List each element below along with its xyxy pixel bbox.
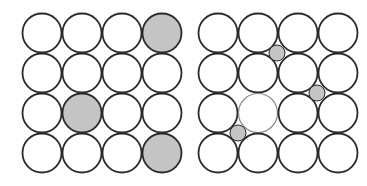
host-atom	[23, 14, 62, 53]
host-atom	[23, 94, 62, 133]
host-atom	[23, 134, 62, 173]
substitutional-atom	[143, 134, 182, 173]
host-atom	[319, 134, 358, 173]
host-atom	[319, 14, 358, 53]
host-atom	[103, 14, 142, 53]
host-atom	[143, 94, 182, 133]
host-atom	[143, 54, 182, 93]
host-atom	[199, 94, 238, 133]
host-atom	[63, 14, 102, 53]
interstitial-atom	[309, 85, 325, 101]
host-atom	[63, 134, 102, 173]
host-atom	[239, 134, 278, 173]
host-atom	[23, 54, 62, 93]
substitutional-atom	[143, 14, 182, 53]
host-atom	[319, 94, 358, 133]
interstitial-atom	[269, 45, 285, 61]
host-atom	[63, 54, 102, 93]
host-atom	[103, 94, 142, 133]
interstitial-lattice	[199, 14, 358, 173]
host-atom	[103, 134, 142, 173]
substitutional-lattice	[23, 14, 182, 173]
lattice-diagram	[0, 0, 367, 186]
host-atom	[319, 54, 358, 93]
host-atom	[199, 14, 238, 53]
host-atom	[199, 54, 238, 93]
interstitial-atom	[230, 125, 246, 141]
host-atom	[103, 54, 142, 93]
host-atom	[279, 134, 318, 173]
host-atom	[239, 94, 278, 133]
host-atom	[279, 14, 318, 53]
substitutional-atom	[63, 94, 102, 133]
host-atom	[199, 134, 238, 173]
